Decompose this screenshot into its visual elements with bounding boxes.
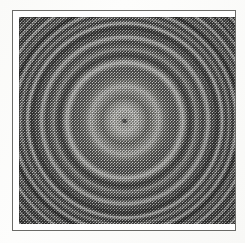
center-nucleus-dot <box>122 119 127 123</box>
figure-root <box>0 0 245 243</box>
halftone-plate <box>19 17 235 224</box>
figure-frame-border <box>12 10 236 231</box>
